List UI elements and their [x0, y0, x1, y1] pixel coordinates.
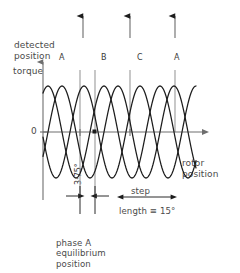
- axes-group: [40, 62, 209, 200]
- x-axis-arrowhead: [202, 129, 209, 135]
- phase-offset-dimension: [66, 186, 109, 214]
- phase-a-equilibrium-marker: [93, 130, 97, 134]
- detected-position-arrow-group: [83, 16, 175, 38]
